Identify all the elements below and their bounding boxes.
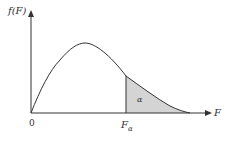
y-axis-arrow-icon (28, 10, 34, 17)
shaded-area-label: α (137, 96, 142, 104)
critical-value-symbol: F (121, 119, 128, 130)
x-axis-label: F (214, 108, 221, 118)
f-distribution-diagram (0, 0, 235, 144)
critical-value-label: Fα (121, 120, 133, 133)
density-curve (31, 43, 190, 113)
origin-label: 0 (29, 119, 35, 128)
critical-value-subscript: α (128, 125, 133, 133)
x-axis-arrow-icon (205, 110, 212, 116)
shaded-tail-region (126, 76, 190, 113)
y-axis-label: f(F) (8, 6, 26, 16)
